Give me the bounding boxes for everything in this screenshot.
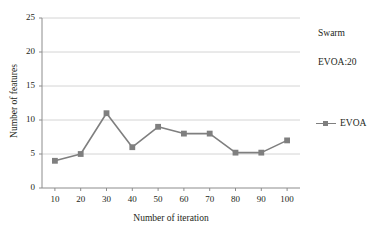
annotation-evoa-count: EVOA:20	[318, 57, 357, 67]
data-point-marker	[104, 110, 110, 116]
x-tick-label: 90	[249, 195, 273, 204]
data-point-marker	[129, 144, 135, 150]
x-tick-label: 40	[120, 195, 144, 204]
data-point-marker	[52, 158, 58, 164]
chart-container: 0510152025 102030405060708090100 Number …	[0, 0, 387, 234]
data-point-marker	[155, 124, 161, 130]
x-tick-label: 20	[69, 195, 93, 204]
x-tick-label: 10	[43, 195, 67, 204]
data-point-marker	[78, 151, 84, 157]
data-point-marker	[258, 150, 264, 156]
legend-square-icon	[323, 121, 328, 126]
data-point-marker	[207, 131, 213, 137]
y-axis-title: Number of features	[9, 51, 19, 151]
legend-label-evoa: EVOA	[340, 118, 366, 128]
x-tick-label: 30	[95, 195, 119, 204]
x-tick-label: 60	[172, 195, 196, 204]
plot-area: 0510152025 102030405060708090100 Number …	[0, 0, 310, 205]
series-markers-evoa	[52, 110, 290, 163]
gridlines	[39, 18, 300, 188]
data-point-marker	[181, 131, 187, 137]
x-axis-title: Number of iteration	[42, 213, 300, 223]
data-point-marker	[284, 138, 290, 144]
y-tick-label: 25	[13, 13, 35, 22]
x-tick-label: 50	[146, 195, 170, 204]
y-tick-label: 0	[13, 183, 35, 192]
data-point-marker	[233, 150, 239, 156]
chart-legend: EVOA	[316, 118, 366, 128]
chart-canvas	[0, 0, 310, 205]
x-tick-label: 80	[224, 195, 248, 204]
x-tick-label: 100	[275, 195, 299, 204]
legend-marker-evoa	[316, 119, 336, 128]
annotation-swarm: Swarm	[318, 28, 345, 38]
x-tick-label: 70	[198, 195, 222, 204]
